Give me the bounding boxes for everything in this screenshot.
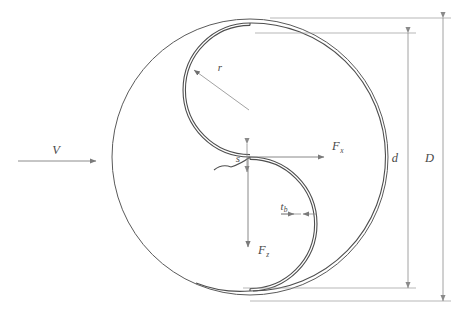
- radius-label: r: [218, 61, 223, 73]
- lower-blade-outer-arc: [250, 157, 317, 291]
- force-z-base: F: [257, 243, 266, 257]
- upper-blade-outer-arc: [183, 23, 250, 157]
- lower-blade-inner-arc: [250, 159, 315, 288]
- force-z-label: Fz: [257, 243, 269, 259]
- savonius-diagram: V r s Fx Fz tb d D: [0, 0, 470, 318]
- overlap-label: s: [236, 152, 240, 164]
- velocity-label: V: [52, 143, 61, 157]
- force-x-base: F: [331, 139, 340, 153]
- force-z-subscript: z: [265, 250, 269, 259]
- upper-blade-tip-tail: [214, 166, 231, 170]
- diagram-canvas: V r s Fx Fz tb d D: [0, 0, 470, 318]
- dim-D-label: D: [424, 151, 434, 165]
- thickness-subscript: b: [284, 205, 288, 214]
- thickness-label: tb: [280, 200, 287, 214]
- force-x-subscript: x: [339, 146, 344, 155]
- radius-leader-line: [194, 70, 249, 110]
- dim-d-label: d: [392, 151, 399, 165]
- force-x-label: Fx: [331, 139, 344, 155]
- upper-blade-inner-arc: [185, 25, 250, 154]
